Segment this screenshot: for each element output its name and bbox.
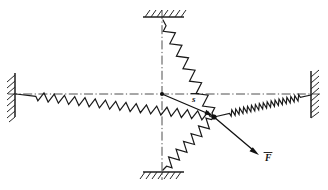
junction-node [211, 114, 216, 119]
spring-right [214, 95, 311, 117]
force-vector [214, 117, 259, 155]
force-label: F [264, 153, 272, 163]
left-wall-hatching [7, 75, 15, 122]
spring-bottom [163, 117, 214, 170]
displacement-label-group: s [191, 94, 199, 105]
spring-top [163, 20, 215, 117]
spring-system-figure: s F [0, 0, 328, 190]
figure-canvas: s F [0, 0, 328, 190]
force-vector-shaft [214, 117, 253, 150]
bottom-wall-hatching [140, 172, 181, 179]
force-label-group: F [264, 153, 272, 164]
origin-node [160, 92, 164, 96]
top-wall-hatching [145, 10, 186, 17]
top-wall-support [143, 10, 186, 17]
displacement-label: s [191, 94, 196, 104]
left-wall-support [7, 73, 15, 122]
spring-left [16, 93, 214, 120]
